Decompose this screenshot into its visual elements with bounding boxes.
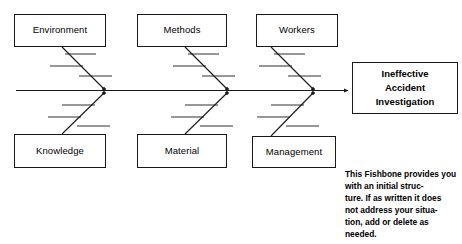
effect-line-3: Investigation	[376, 95, 435, 109]
bone-material	[171, 93, 233, 134]
category-box-methods[interactable]: Methods	[137, 14, 227, 47]
category-box-workers[interactable]: Workers	[256, 14, 338, 47]
category-box-material[interactable]: Material	[137, 134, 227, 168]
bone-environment	[50, 47, 112, 89]
bone-management	[257, 93, 319, 136]
bone-methods	[173, 47, 235, 89]
category-box-knowledge[interactable]: Knowledge	[14, 134, 106, 168]
category-label-environment: Environment	[33, 25, 87, 35]
instruction-note: This Fishbone provides you with an initi…	[345, 169, 457, 241]
bone-knowledge	[48, 93, 110, 134]
effect-line-1: Ineffective	[382, 67, 429, 81]
category-label-workers: Workers	[279, 25, 315, 35]
effect-line-2: Accident	[385, 81, 425, 95]
category-box-environment[interactable]: Environment	[14, 14, 106, 47]
category-label-material: Material	[165, 146, 200, 156]
effect-box[interactable]: Ineffective Accident Investigation	[352, 62, 458, 114]
bone-workers	[259, 47, 321, 89]
category-label-methods: Methods	[163, 25, 200, 35]
fishbone-diagram: Environment Methods Workers Knowledge Ma…	[0, 0, 462, 244]
category-label-management: Management	[266, 147, 322, 157]
category-box-management[interactable]: Management	[252, 136, 336, 168]
category-label-knowledge: Knowledge	[36, 146, 84, 156]
